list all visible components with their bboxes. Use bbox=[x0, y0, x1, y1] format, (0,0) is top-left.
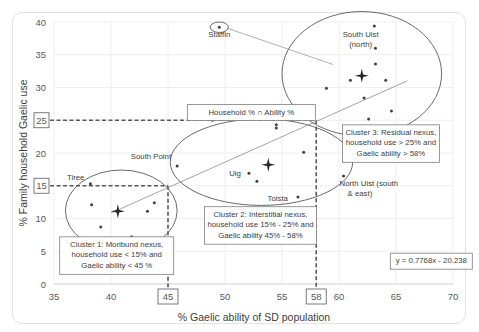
point-label: & east) bbox=[348, 189, 373, 198]
point-label: South Point bbox=[131, 152, 172, 161]
annotation-text-cluster1: household use < 15% and bbox=[72, 250, 162, 259]
x-tick-label: 65 bbox=[391, 291, 402, 302]
centroid-star-icon bbox=[111, 204, 125, 218]
x-tick-label: 50 bbox=[220, 291, 231, 302]
x-tick-label: 58 bbox=[311, 291, 322, 302]
point-label: Staffin bbox=[208, 30, 230, 39]
x-tick-label: 40 bbox=[106, 291, 117, 302]
annotations: Household % ∩ Ability %Cluster 1: Moribu… bbox=[60, 30, 473, 274]
x-tick-label: 60 bbox=[334, 291, 345, 302]
point-label: North Uist (south bbox=[340, 179, 399, 188]
x-tick-label: 35 bbox=[49, 291, 60, 302]
data-point bbox=[363, 96, 366, 99]
data-point bbox=[275, 123, 278, 126]
annotation-text-south-uist: (north) bbox=[349, 40, 372, 49]
y-tick-label: 10 bbox=[35, 213, 46, 224]
x-tick-label: 70 bbox=[448, 291, 459, 302]
annotation-text-cluster3: Gaelic ability > 58% bbox=[357, 149, 426, 158]
data-point bbox=[342, 174, 345, 177]
y-tick-label: 5 bbox=[41, 246, 46, 257]
data-point bbox=[255, 180, 258, 183]
centroid-star-icon bbox=[355, 69, 369, 83]
annotation-text-cluster2: Gaelic ability 45% - 58% bbox=[218, 231, 303, 240]
y-tick-label: 15 bbox=[36, 180, 47, 191]
y-tick-label: 35 bbox=[35, 49, 46, 60]
data-point bbox=[218, 26, 221, 29]
data-point bbox=[349, 79, 352, 82]
annotation-text-cluster1: Cluster 1: Moribund nexus, bbox=[70, 240, 163, 249]
point-label: Uig bbox=[229, 169, 241, 178]
data-point bbox=[302, 151, 305, 154]
data-point bbox=[367, 117, 370, 120]
data-point bbox=[390, 110, 393, 113]
data-point bbox=[247, 172, 250, 175]
staffin-link bbox=[227, 28, 333, 64]
data-point bbox=[325, 87, 328, 90]
data-point bbox=[146, 210, 149, 213]
point-label: Tiree bbox=[67, 173, 84, 182]
y-axis-title: % Family household Gaelic use bbox=[17, 79, 29, 226]
point-label: Tolsta bbox=[268, 194, 289, 203]
data-point bbox=[374, 62, 377, 65]
x-axis-title: % Gaelic ability of SD population bbox=[178, 311, 330, 323]
data-point bbox=[99, 226, 102, 229]
data-point bbox=[90, 203, 93, 206]
y-tick-label: 25 bbox=[36, 115, 47, 126]
annotation-text-cluster3: Cluster 3: Residual nexus, bbox=[345, 128, 436, 137]
staffin-connector-line bbox=[227, 28, 333, 64]
cluster-ellipse bbox=[170, 119, 352, 205]
annotation-text-cluster2: Cluster 2: Interstitial nexus, bbox=[213, 210, 307, 219]
annotation-text-cluster1: Gaelic ability < 45 % bbox=[81, 261, 152, 270]
data-point bbox=[176, 165, 179, 168]
x-tick-label: 55 bbox=[277, 291, 288, 302]
annotation-text-cluster3: household use > 25% and bbox=[346, 138, 436, 147]
data-point bbox=[89, 182, 92, 185]
annotation-text-intersect: Household % ∩ Ability % bbox=[208, 108, 294, 117]
data-point bbox=[384, 79, 387, 82]
data-point bbox=[373, 24, 376, 27]
annotation-text-cluster2: household use 15% - 25% and bbox=[207, 220, 313, 229]
data-point bbox=[275, 127, 278, 130]
y-tick-label: 30 bbox=[35, 82, 46, 93]
y-tick-label: 20 bbox=[35, 148, 46, 159]
scatter-chart: 3540455055606570580510152025303540 Staff… bbox=[0, 0, 479, 332]
y-tick-label: 0 bbox=[41, 279, 46, 290]
x-tick-label: 45 bbox=[163, 291, 174, 302]
centroid-star-icon bbox=[261, 158, 275, 172]
y-tick-label: 40 bbox=[35, 17, 46, 28]
annotation-text-south-uist: South Uist bbox=[343, 30, 380, 39]
annotation-text-equation: y = 0.7768x - 20.238 bbox=[396, 256, 467, 265]
data-point bbox=[374, 47, 377, 50]
data-point bbox=[296, 195, 299, 198]
data-point bbox=[153, 201, 156, 204]
